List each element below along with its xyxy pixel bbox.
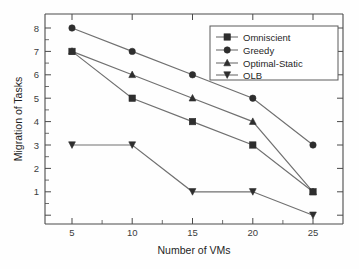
x-tick-label: 20	[248, 227, 259, 238]
data-point-greedy	[250, 95, 256, 101]
data-point-omniscient	[189, 118, 195, 124]
y-tick-label: 1	[34, 186, 39, 197]
data-point-omniscient	[129, 95, 135, 101]
y-tick-label: 5	[34, 93, 39, 104]
x-tick-label: 15	[187, 227, 198, 238]
legend-label: OLB	[243, 70, 262, 81]
x-axis-tick-labels: 5 10 15 20 25	[69, 227, 318, 238]
y-tick-label: 8	[34, 23, 39, 34]
x-tick-label: 25	[308, 227, 319, 238]
data-point-greedy	[69, 25, 75, 31]
data-point-greedy	[310, 142, 316, 148]
legend-label: Omniscient	[243, 32, 291, 43]
x-tick-label: 10	[127, 227, 138, 238]
x-tick-label: 5	[69, 227, 74, 238]
legend-marker-square-icon	[224, 34, 230, 40]
data-point-greedy	[189, 72, 195, 78]
data-point-omniscient	[310, 189, 316, 195]
y-axis-title: Migration of Tasks	[12, 77, 24, 161]
data-point-olb	[310, 212, 317, 219]
y-tick-label: 2	[34, 163, 39, 174]
data-point-omniscient	[250, 142, 256, 148]
legend-marker-circle-icon	[224, 47, 230, 53]
chart-legend: Omniscient Greedy Optimal-Static OLB	[210, 26, 338, 81]
legend-label: Greedy	[243, 45, 274, 56]
y-tick-label: 7	[34, 46, 39, 57]
data-point-omniscient	[69, 48, 75, 54]
series-olb	[69, 142, 317, 219]
y-tick-label: 6	[34, 69, 39, 80]
y-tick-label: 4	[34, 116, 39, 127]
y-tick-label: 3	[34, 140, 39, 151]
y-axis-tick-labels: 8 7 6 5 4 3 2 1	[34, 23, 39, 198]
chart-figure: 8 7 6 5 4 3 2 1 5	[0, 0, 359, 269]
legend-label: Optimal-Static	[243, 58, 303, 69]
line-chart: 8 7 6 5 4 3 2 1 5	[0, 0, 359, 269]
x-axis-title: Number of VMs	[158, 244, 231, 256]
data-point-greedy	[129, 48, 135, 54]
